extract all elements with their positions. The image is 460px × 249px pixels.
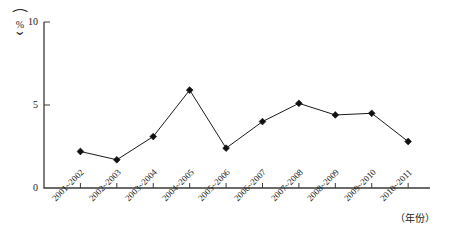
data-point-marker: [77, 148, 84, 155]
data-point-marker: [259, 118, 266, 125]
y-tick-label-10: 10: [14, 16, 38, 27]
data-point-markers: [77, 87, 412, 164]
data-point-marker: [113, 156, 120, 163]
y-tick-label-5: 5: [14, 99, 38, 110]
plot-area: [0, 0, 460, 249]
y-tick-marks: [44, 22, 50, 105]
axes-lines: [44, 22, 430, 188]
data-point-marker: [296, 100, 303, 107]
x-axis-title: （年份）: [395, 210, 435, 225]
line-chart: ⌒ % ⌄ 10 5 0 2001~20022002~20032003~2004…: [0, 0, 460, 249]
y-tick-label-0: 0: [14, 182, 38, 193]
series-line: [80, 90, 408, 160]
data-point-marker: [223, 145, 230, 152]
data-point-marker: [332, 112, 339, 119]
